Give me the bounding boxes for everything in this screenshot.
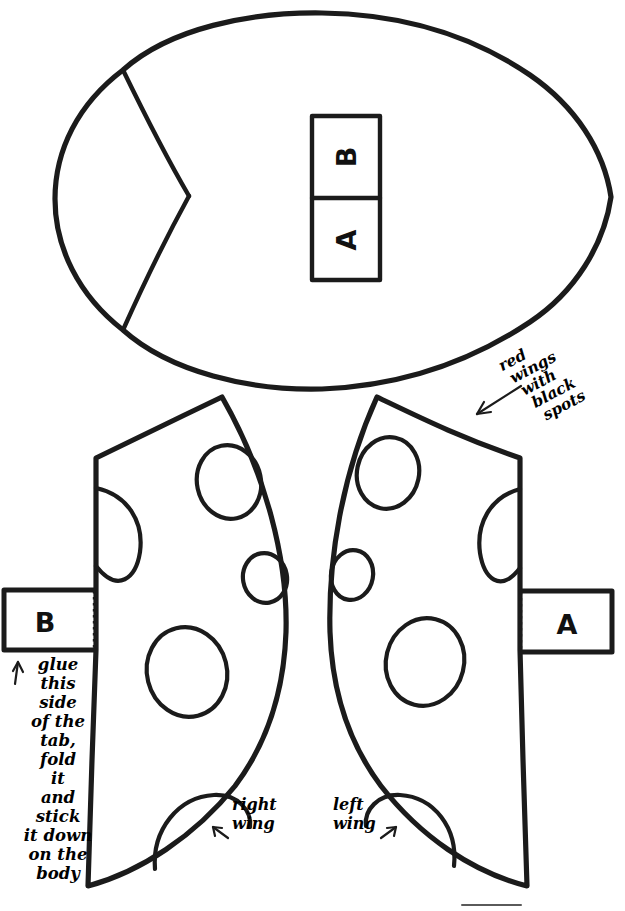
body-slot-label-a: A — [331, 229, 362, 250]
glue-note-line-12: body — [22, 864, 94, 883]
left-wing-caption-line-2: wing — [333, 814, 403, 833]
glue-note-line-3: side — [22, 693, 94, 712]
body-slot-label-b: B — [331, 147, 362, 168]
ladybug-body-piece — [55, 13, 611, 389]
left-wing-caption-block: left wing — [333, 795, 403, 833]
glue-note-line-10: it down — [22, 826, 94, 845]
worksheet-canvas: B A — [0, 0, 625, 911]
left-wing-spot-1 — [350, 431, 426, 514]
glue-note-line-11: on the — [22, 845, 94, 864]
color-note-arrow-head-icon — [477, 402, 491, 414]
glue-note-line-6: fold — [22, 750, 94, 769]
glue-note-line-4: of the — [22, 712, 94, 731]
left-wing-spot-3 — [377, 610, 474, 714]
right-wing-spot-1 — [190, 439, 268, 525]
right-wing-caption-block: right wing — [232, 795, 302, 833]
glue-note-line-2: this — [22, 674, 94, 693]
body-head-notch-lower — [123, 196, 189, 330]
tab-b-label: B — [35, 607, 56, 638]
left-wing-half-spot-edge — [479, 489, 520, 581]
glue-note-line-1: glue — [22, 655, 94, 674]
right-wing-caption-arrow-group — [213, 827, 228, 838]
left-wing-caption-line-1: left — [333, 795, 403, 814]
body-head-notch-upper — [123, 70, 189, 196]
glue-note-text-block: glue this side of the tab, fold it and s… — [22, 655, 94, 883]
right-wing-caption-line-1: right — [232, 795, 302, 814]
glue-note-line-8: and — [22, 788, 94, 807]
glue-note-line-7: it — [22, 769, 94, 788]
right-wing-half-spot-edge — [96, 488, 141, 581]
tab-a-label: A — [557, 609, 578, 640]
body-outline — [55, 13, 611, 389]
glue-note-line-5: tab, — [22, 731, 94, 750]
right-wing-spot-3 — [137, 619, 236, 726]
right-wing-caption-line-2: wing — [232, 814, 302, 833]
glue-note-line-9: stick — [22, 807, 94, 826]
